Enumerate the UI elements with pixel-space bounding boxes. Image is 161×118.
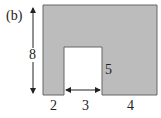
right-width-label: 4 (127, 99, 134, 113)
notch-width-label: 3 (82, 99, 89, 113)
height-label: 8 (29, 48, 36, 62)
figure-label: (b) (6, 9, 22, 23)
notch-height-label: 5 (105, 63, 112, 77)
figure-canvas (0, 0, 161, 118)
left-width-label: 2 (50, 99, 57, 113)
notched-rectangle-shape (43, 5, 157, 95)
